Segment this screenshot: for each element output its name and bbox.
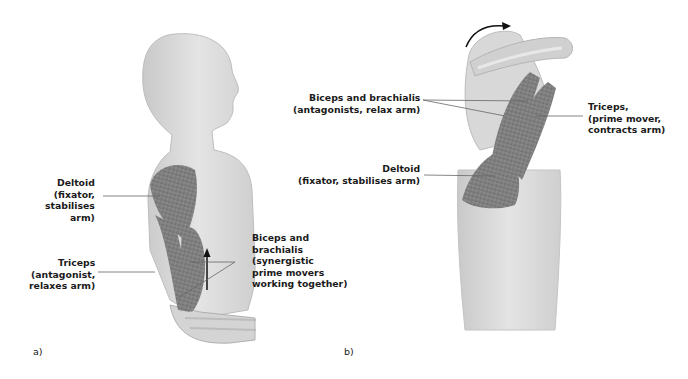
label-line: Deltoid [298,163,420,175]
label-line: Triceps, [588,101,665,113]
label-line: Biceps and brachialis [293,92,420,104]
label-line: working together) [252,278,347,290]
figure-b-body [457,31,572,330]
label-line: (antagonist, [29,269,95,281]
muscle-diagram: Deltoid (fixator, stabilises arm) Tricep… [0,0,688,379]
label-line: (antagonists, relax arm) [293,104,420,116]
label-line: Deltoid [45,177,95,189]
label-deltoid-a: Deltoid (fixator, stabilises arm) [45,177,95,223]
label-line: (fixator, [45,189,95,201]
label-triceps-a: Triceps (antagonist, relaxes arm) [29,257,95,292]
label-line: stabilises [45,200,95,212]
label-triceps-b: Triceps, (prime mover, contracts arm) [588,101,665,136]
figure-a-body [143,34,256,344]
label-line: relaxes arm) [29,280,95,292]
label-line: prime movers [252,267,347,279]
panel-letter-b: b) [344,346,354,357]
illustration [0,0,688,379]
label-line: (fixator, stabilises arm) [298,175,420,187]
label-line: arm) [45,212,95,224]
label-line: (synergistic [252,255,347,267]
panel-letter-a: a) [33,346,43,357]
label-line: Biceps and [252,232,347,244]
label-biceps-brachialis-b: Biceps and brachialis (antagonists, rela… [293,92,420,115]
label-line: contracts arm) [588,124,665,136]
label-deltoid-b: Deltoid (fixator, stabilises arm) [298,163,420,186]
label-line: (prime mover, [588,113,665,125]
label-line: Triceps [29,257,95,269]
label-line: brachialis [252,244,347,256]
label-biceps-brachialis-a: Biceps and brachialis (synergistic prime… [252,232,347,290]
